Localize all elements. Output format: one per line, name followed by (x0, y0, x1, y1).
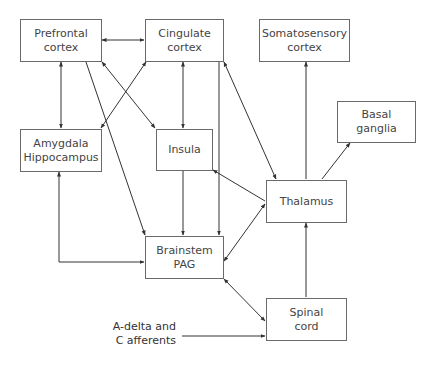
node-brainstem-pag: Brainstem PAG (145, 236, 224, 279)
arrow-thalamus-brainstem (224, 204, 265, 261)
afferents-label-line1: A-delta and (104, 320, 176, 334)
arrow-prefrontal-insula (102, 62, 155, 128)
node-amygdala-hippocampus: Amygdala Hippocampus (20, 129, 102, 172)
arrow-thalamus-basal (322, 143, 350, 179)
arrow-spinal-brainstem (224, 279, 265, 321)
node-label: cortex (167, 41, 202, 55)
arrow-amygdala-brainstem (59, 172, 144, 262)
node-spinal-cord: Spinal cord (266, 298, 347, 341)
node-label: Amygdala (33, 137, 88, 151)
node-basal-ganglia: Basal ganglia (337, 101, 416, 143)
node-label: Cingulate (158, 27, 211, 41)
node-label: Hippocampus (23, 151, 98, 165)
node-somatosensory-cortex: Somatosensory cortex (259, 19, 350, 62)
afferents-label-line2: C afferents (104, 334, 176, 348)
node-label: PAG (174, 258, 196, 272)
node-label: ganglia (356, 122, 397, 136)
node-label: cortex (44, 41, 79, 55)
pain-pathway-diagram: Prefrontal cortex Cingulate cortex Somat… (0, 0, 433, 365)
node-insula: Insula (156, 129, 213, 171)
node-label: Spinal (290, 306, 324, 320)
node-label: cortex (287, 41, 322, 55)
node-label: Brainstem (156, 244, 212, 258)
node-label: Basal (362, 108, 392, 122)
node-label: Prefrontal (34, 27, 87, 41)
node-label: Somatosensory (262, 27, 347, 41)
node-cingulate-cortex: Cingulate cortex (145, 19, 224, 62)
node-thalamus: Thalamus (266, 180, 347, 223)
afferents-input-label: A-delta and C afferents (104, 320, 176, 348)
arrow-cingulate-thalamus (224, 62, 276, 179)
node-label: cord (294, 320, 318, 334)
arrow-amygdala-cingulate (101, 62, 146, 128)
arrow-thalamus-insula (213, 170, 265, 201)
node-prefrontal-cortex: Prefrontal cortex (20, 19, 102, 62)
node-label: Thalamus (280, 195, 334, 209)
node-label: Insula (168, 143, 201, 157)
